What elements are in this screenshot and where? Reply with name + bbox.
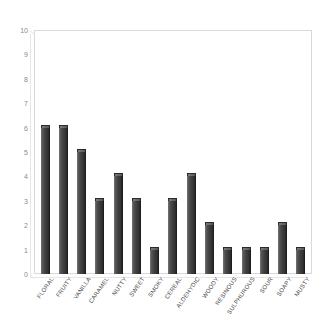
bar [150,250,159,274]
x-axis-tick-smoky: SMOKY [147,276,165,298]
x-axis-tick-woody: WOODY [201,276,220,299]
bar-slot [237,30,255,274]
y-axis-tick-10: 10 [0,27,28,34]
bar-top-cap [168,198,177,201]
bar [41,128,50,274]
bar [95,201,104,274]
bar-slot [146,30,164,274]
bar-chart: 012345678910 FLORALFRUITYVANILLACARAMELN… [0,0,324,329]
bar-top-cap [59,125,68,128]
bar [77,152,86,274]
bar-top-cap [205,222,214,225]
bar-slot [273,30,291,274]
x-axis-tick-soapy: SOAPY [275,276,292,297]
x-axis: FLORALFRUITYVANILLACARAMELNUTTYSWEETSMOK… [36,276,310,329]
bar-top-cap [260,247,269,250]
x-axis-tick-sweet: SWEET [129,276,147,298]
bar-slot [219,30,237,274]
bar-slot [292,30,310,274]
bar [223,250,232,274]
x-axis-tick-vanilla: VANILLA [72,276,92,300]
bar-top-cap [150,247,159,250]
bar-top-cap [296,247,305,250]
y-axis-tick-9: 9 [0,51,28,58]
bar-slot [200,30,218,274]
y-axis-tick-3: 3 [0,197,28,204]
y-axis: 012345678910 [0,30,28,274]
bar-top-cap [132,198,141,201]
y-axis-tick-4: 4 [0,173,28,180]
bar [59,128,68,274]
bar-top-cap [95,198,104,201]
bar-top-cap [77,149,86,152]
bar [242,250,251,274]
x-axis-tick-floral: FLORAL [36,276,55,300]
bar-slot [255,30,273,274]
y-axis-tick-7: 7 [0,100,28,107]
x-axis-tick-sour: SOUR [259,276,274,294]
bars-area [36,30,310,274]
bar [168,201,177,274]
bar-top-cap [242,247,251,250]
bar-slot [109,30,127,274]
bar [132,201,141,274]
bar [114,176,123,274]
bar [187,176,196,274]
bar-top-cap [278,222,287,225]
bar [296,250,305,274]
bar-top-cap [114,173,123,176]
bar-slot [127,30,145,274]
bar-slot [54,30,72,274]
y-axis-tick-2: 2 [0,222,28,229]
y-axis-tick-5: 5 [0,149,28,156]
y-axis-tick-6: 6 [0,124,28,131]
x-axis-tick-nutty: NUTTY [111,276,128,297]
bar-slot [182,30,200,274]
bar [205,225,214,274]
bar-slot [73,30,91,274]
y-axis-tick-1: 1 [0,246,28,253]
x-axis-tick-fruity: FRUITY [55,276,73,298]
bar-top-cap [41,125,50,128]
bar [278,225,287,274]
bar-top-cap [187,173,196,176]
bar-slot [91,30,109,274]
x-axis-tick-musty: MUSTY [293,276,311,297]
bar-slot [36,30,54,274]
bar [260,250,269,274]
bar-slot [164,30,182,274]
y-axis-tick-8: 8 [0,75,28,82]
bar-top-cap [223,247,232,250]
y-axis-tick-0: 0 [0,271,28,278]
